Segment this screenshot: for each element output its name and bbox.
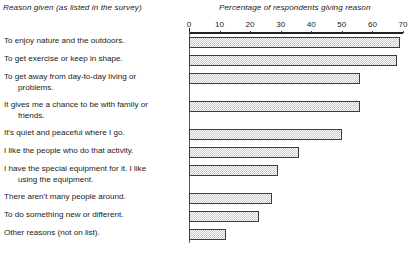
x-axis-tick-label: 70 [391, 20, 415, 29]
category-label: There aren't many people around. [4, 192, 186, 203]
category-label-line: There aren't many people around. [4, 192, 186, 203]
bar [189, 211, 259, 222]
category-label-line: It gives me a chance to be with family o… [4, 100, 186, 111]
category-label: I have the special equipment for it. I l… [4, 164, 186, 185]
x-axis-tick-label: 0 [177, 20, 201, 29]
bar [189, 101, 360, 112]
category-label: Other reasons (not on list). [4, 228, 186, 239]
x-axis-tick-mark [250, 31, 251, 33]
x-axis-tick-label: 10 [208, 20, 232, 29]
bar-chart: Reason given (as listed in the survey) P… [0, 0, 416, 262]
category-label-line: I like the people who do that activity. [4, 146, 186, 157]
category-label: It gives me a chance to be with family o… [4, 100, 186, 121]
x-axis-tick-label: 50 [330, 20, 354, 29]
bar [189, 229, 226, 240]
category-label-line: It's quiet and peaceful where I go. [4, 128, 186, 139]
category-label-line: Other reasons (not on list). [4, 228, 186, 239]
category-label-line: To get away from day-to-day living or [4, 72, 186, 83]
bar [189, 147, 299, 158]
bar [189, 193, 272, 204]
x-axis-tick-mark [311, 31, 312, 33]
category-label: To enjoy nature and the outdoors. [4, 36, 186, 47]
bar [189, 55, 397, 66]
category-label-line: problems. [4, 83, 186, 94]
x-axis-tick-mark [372, 31, 373, 33]
category-label: It's quiet and peaceful where I go. [4, 128, 186, 139]
category-label-line: using the equipment. [4, 175, 186, 186]
bar [189, 37, 400, 48]
x-axis-tick-mark [342, 31, 343, 33]
x-axis-tick-label: 60 [360, 20, 384, 29]
x-axis-tick-label: 20 [238, 20, 262, 29]
x-axis-tick-mark [220, 31, 221, 33]
x-axis-tick-label: 30 [269, 20, 293, 29]
bar [189, 129, 342, 140]
x-axis-tick-mark [403, 31, 404, 33]
category-label: To get away from day-to-day living orpro… [4, 72, 186, 93]
category-label-line: To do something new or different. [4, 210, 186, 221]
category-label-line: friends. [4, 111, 186, 122]
x-axis-tick-mark [281, 31, 282, 33]
bar [189, 165, 278, 176]
category-label-line: I have the special equipment for it. I l… [4, 164, 186, 175]
category-label-line: To enjoy nature and the outdoors. [4, 36, 186, 47]
category-label-line: To get exercise or keep in shape. [4, 54, 186, 65]
category-label: I like the people who do that activity. [4, 146, 186, 157]
bar [189, 73, 360, 84]
category-label: To do something new or different. [4, 210, 186, 221]
axis-line [189, 32, 403, 34]
category-label: To get exercise or keep in shape. [4, 54, 186, 65]
x-axis-tick-label: 40 [299, 20, 323, 29]
